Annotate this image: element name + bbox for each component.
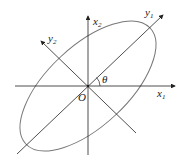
y1-label: y1 [144,6,153,20]
y2-label: y2 [47,32,57,46]
origin-label: O [78,91,86,103]
diagram-canvas: x1 x2 y1 y2 O θ [0,0,181,166]
angle-arc [97,78,101,87]
origin-point [87,85,89,87]
x1-label: x1 [156,87,165,101]
x2-label: x2 [92,15,102,29]
ellipse [0,0,177,166]
diagram-svg: x1 x2 y1 y2 O θ [0,0,181,166]
angle-label: θ [102,73,108,85]
